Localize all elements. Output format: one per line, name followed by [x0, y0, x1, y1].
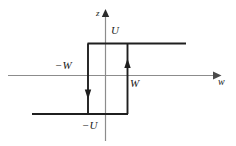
z-axis-label: z: [96, 9, 100, 18]
hysteresis-plot: [0, 0, 236, 146]
descending-direction-arrow-icon: [85, 90, 91, 100]
label-output-positive: U: [111, 25, 119, 36]
hysteresis-figure: z w U −U −W W: [0, 0, 236, 146]
label-threshold-positive: W: [130, 78, 139, 89]
label-threshold-negative: −W: [55, 60, 72, 71]
w-axis: [8, 72, 222, 80]
hysteresis-loop-curve: [32, 44, 186, 115]
z-axis-arrowhead-icon: [102, 9, 109, 17]
w-axis-label: w: [218, 77, 225, 87]
label-output-negative: −U: [82, 120, 97, 131]
ascending-direction-arrow-icon: [124, 59, 130, 69]
